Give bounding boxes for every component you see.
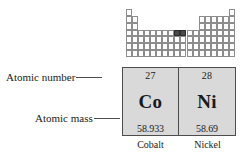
leader-line-atomic-number xyxy=(76,77,102,78)
callout-atomic-number: Atomic number xyxy=(6,71,102,84)
periodic-table-cell xyxy=(229,16,235,23)
callout-atomic-mass-label: Atomic mass xyxy=(35,112,93,125)
element-name-nickel: Nickel xyxy=(179,139,236,151)
callout-atomic-number-label: Atomic number xyxy=(6,71,75,84)
periodic-table-cell xyxy=(229,23,235,30)
periodic-table-overview xyxy=(126,9,235,58)
atomic-number-cobalt: 27 xyxy=(145,70,155,81)
periodic-table-cell xyxy=(229,43,235,50)
element-cell-nickel: 28 Ni 58.69 xyxy=(179,68,235,135)
element-symbol-cobalt: Co xyxy=(139,92,163,112)
element-cell-cobalt: 27 Co 58.933 xyxy=(123,68,179,135)
periodic-table-cell xyxy=(229,36,235,43)
periodic-table-cell xyxy=(132,23,138,30)
element-name-cobalt: Cobalt xyxy=(122,139,179,151)
element-symbol-nickel: Ni xyxy=(197,92,217,112)
leader-line-atomic-mass xyxy=(94,118,120,119)
periodic-table-cell xyxy=(229,30,235,37)
periodic-table-cell xyxy=(132,16,138,23)
atomic-mass-cobalt: 58.933 xyxy=(137,123,164,134)
periodic-table-cell xyxy=(126,9,132,16)
periodic-table-cell xyxy=(229,50,235,57)
element-names: Cobalt Nickel xyxy=(122,139,236,151)
element-boxes: 27 Co 58.933 28 Ni 58.69 xyxy=(122,67,236,136)
atomic-mass-nickel: 58.69 xyxy=(196,123,218,134)
atomic-number-nickel: 28 xyxy=(202,70,212,81)
callout-atomic-mass: Atomic mass xyxy=(35,112,120,125)
periodic-table-cell xyxy=(229,9,235,16)
